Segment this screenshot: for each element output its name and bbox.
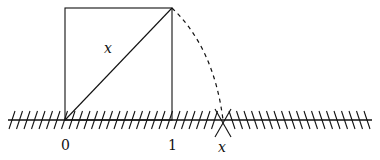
dashed-arc — [172, 8, 223, 120]
point-x-label: x — [218, 139, 226, 155]
diagram-canvas: x 0 1 x — [0, 0, 380, 160]
square-root-two-diagram: x 0 1 x — [0, 0, 380, 160]
one-label: 1 — [168, 137, 177, 153]
diagonal-label: x — [104, 40, 112, 56]
origin-label: 0 — [61, 137, 70, 153]
diagonal-line — [65, 8, 172, 120]
x-intersection-mark — [215, 109, 231, 137]
